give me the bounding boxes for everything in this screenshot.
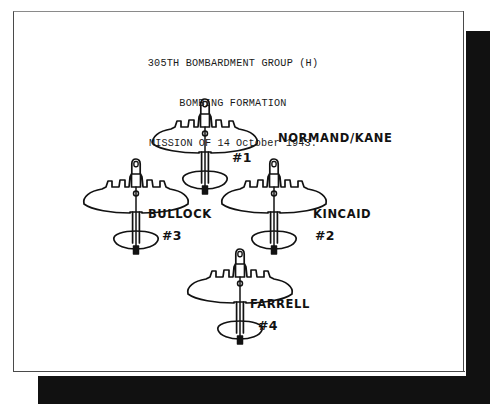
document-page: 305TH BOMBARDMENT GROUP (H) BOMBING FORM… — [0, 0, 466, 376]
formation-diagram: NORMAND/KANE #1 BULLOCK #3 KINCAID #2 — [0, 0, 466, 376]
aircraft-4-pilot-label: FARRELL — [250, 297, 310, 311]
aircraft-4-position-number: #4 — [258, 318, 278, 333]
aircraft-1-pilot-label: NORMAND/KANE — [278, 131, 392, 145]
aircraft-2-pilot-label: KINCAID — [313, 207, 371, 221]
aircraft-3-bullock: BULLOCK #3 — [84, 159, 212, 254]
aircraft-3-pilot-label: BULLOCK — [148, 207, 212, 221]
aircraft-2-position-number: #2 — [315, 228, 335, 243]
screenshot-root: 305TH BOMBARDMENT GROUP (H) BOMBING FORM… — [0, 0, 490, 404]
aircraft-4-farrell: FARRELL #4 — [188, 249, 310, 344]
aircraft-3-position-number: #3 — [162, 228, 182, 243]
aircraft-1-normand-kane: NORMAND/KANE #1 — [153, 99, 393, 194]
aircraft-2-kincaid: KINCAID #2 — [222, 159, 371, 254]
aircraft-1-position-number: #1 — [232, 150, 252, 165]
